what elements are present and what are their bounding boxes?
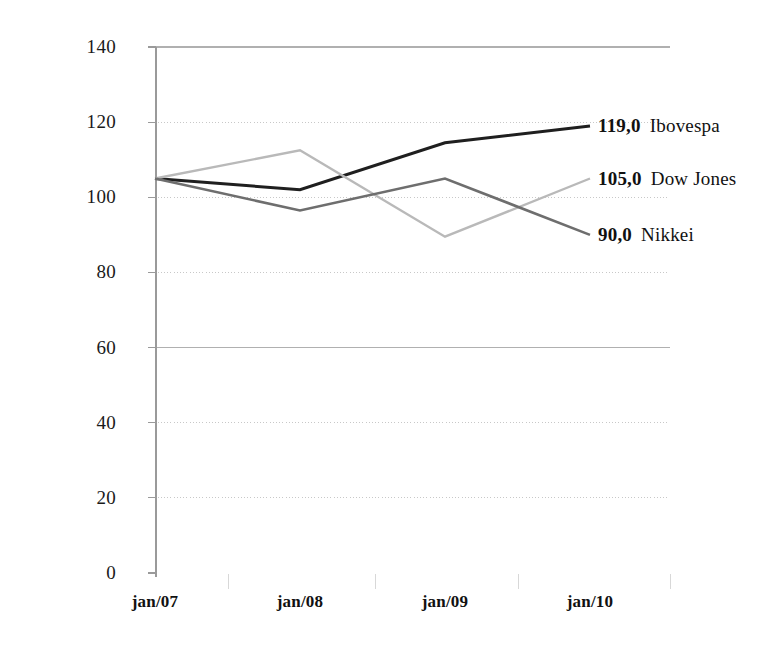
series-annotation-nikkei: 90,0Nikkei <box>598 225 694 244</box>
series-name-label: Nikkei <box>641 224 694 245</box>
x-tick-label-jan-10: jan/10 <box>567 592 614 612</box>
series-annotation-ibovespa: 119,0Ibovespa <box>598 116 720 135</box>
y-tick-label-80: 80 <box>60 262 116 281</box>
series-name-label: Ibovespa <box>650 115 720 136</box>
y-tick-label-60: 60 <box>60 338 116 357</box>
series-line-ibovespa <box>155 126 590 190</box>
x-tick-label-jan-07: jan/07 <box>132 592 179 612</box>
series-name-label: Dow Jones <box>651 168 737 189</box>
series-end-value: 119,0 <box>598 115 641 136</box>
line-chart: 020406080100120140 jan/07jan/08jan/09jan… <box>0 0 775 664</box>
y-tick-label-120: 120 <box>60 112 116 131</box>
x-tick-label-jan-09: jan/09 <box>422 592 469 612</box>
series-end-value: 105,0 <box>598 168 642 189</box>
series-end-value: 90,0 <box>598 224 632 245</box>
y-tick-label-100: 100 <box>60 187 116 206</box>
x-tick-label-jan-08: jan/08 <box>277 592 324 612</box>
y-tick-label-20: 20 <box>60 488 116 507</box>
y-tick-label-40: 40 <box>60 413 116 432</box>
y-tick-label-0: 0 <box>60 563 116 582</box>
y-tick-label-140: 140 <box>60 37 116 56</box>
chart-plot-area <box>0 0 775 664</box>
series-line-nikkei <box>155 179 590 235</box>
series-annotation-dow-jones: 105,0Dow Jones <box>598 169 736 188</box>
